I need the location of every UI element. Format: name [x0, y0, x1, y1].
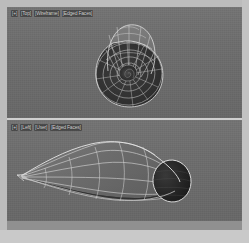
- tapered-cone-mesh: [17, 142, 194, 205]
- window-frame-bottom: [0, 230, 249, 243]
- viewport-bottom[interactable]: [+] [Left] [User] [Edged Faces]: [7, 120, 242, 221]
- viewport-label-top[interactable]: [+] [Top] [Wireframe] [Edged Faces]: [11, 10, 93, 17]
- viewport-top-scene: [7, 7, 242, 118]
- viewport-label-segment: [User]: [34, 124, 48, 131]
- status-bar-band: [7, 221, 242, 230]
- viewport-label-segment: [Edged Faces]: [50, 124, 82, 131]
- window-frame-left: [0, 0, 7, 243]
- radial-shell-mesh: [90, 25, 167, 111]
- viewport-label-segment: [Edged Faces]: [62, 10, 94, 17]
- viewport-top[interactable]: [+] [Top] [Wireframe] [Edged Faces]: [7, 7, 242, 118]
- viewport-label-bottom[interactable]: [+] [Left] [User] [Edged Faces]: [11, 124, 82, 131]
- viewport-label-segment: [Left]: [20, 124, 32, 131]
- viewport-label-segment: [Wireframe]: [34, 10, 60, 17]
- application-window: [+] [Top] [Wireframe] [Edged Faces]: [0, 0, 249, 243]
- viewport-label-segment: [+]: [11, 10, 18, 17]
- window-frame-top: [0, 0, 249, 7]
- viewport-bottom-scene: [7, 120, 242, 221]
- viewport-label-segment: [Top]: [20, 10, 32, 17]
- viewport-label-segment: [+]: [11, 124, 18, 131]
- window-frame-right: [242, 0, 249, 243]
